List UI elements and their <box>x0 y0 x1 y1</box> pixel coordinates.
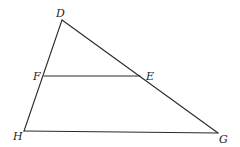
segment-HG <box>24 131 218 133</box>
label-F: F <box>32 70 41 83</box>
label-G: G <box>219 133 228 146</box>
triangle-diagram: D F E H G <box>0 0 240 147</box>
label-H: H <box>12 130 23 143</box>
label-E: E <box>145 70 154 83</box>
label-D: D <box>55 7 65 20</box>
